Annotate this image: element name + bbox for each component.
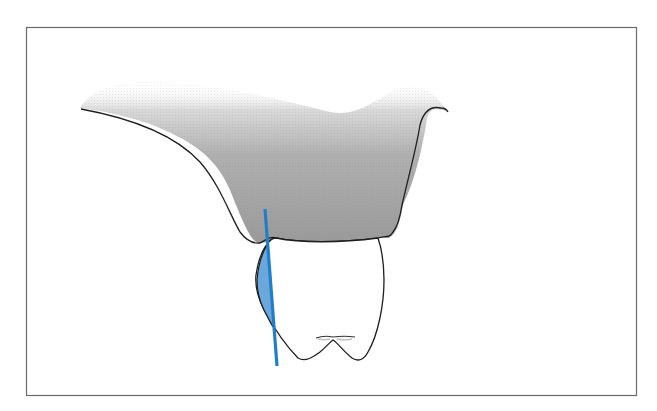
dental-diagram	[0, 0, 657, 411]
